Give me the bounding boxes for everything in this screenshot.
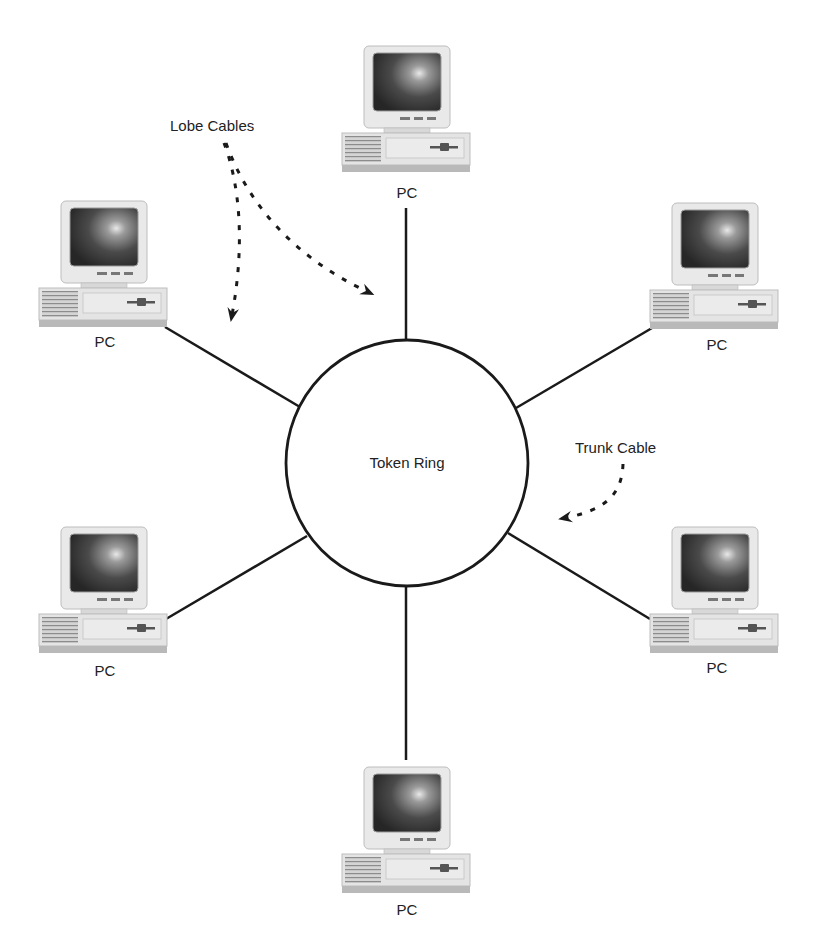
cable-lower-left xyxy=(166,536,307,619)
pc-top: PC xyxy=(342,46,470,202)
pc-upper-left: PC xyxy=(39,201,167,350)
computer-icon xyxy=(342,767,470,893)
computer-icon xyxy=(342,46,470,172)
cable-lower-right xyxy=(508,533,650,619)
cable-upper-right xyxy=(516,328,652,408)
pc-label: PC xyxy=(707,336,728,353)
trunk-cable-annotation: Trunk Cable xyxy=(565,439,656,518)
lobe-cables-label: Lobe Cables xyxy=(170,117,254,134)
trunk-arrow xyxy=(565,464,623,518)
cable-upper-left xyxy=(165,327,300,407)
pc-bottom: PC xyxy=(342,767,470,918)
computer-icon xyxy=(650,527,778,653)
pc-upper-right: PC xyxy=(650,203,778,353)
pc-label: PC xyxy=(397,184,418,201)
ring-label: Token Ring xyxy=(369,454,444,471)
lobe-cables-annotation: Lobe Cables xyxy=(170,117,368,315)
pc-label: PC xyxy=(95,333,116,350)
pc-lower-right: PC xyxy=(650,527,778,676)
pc-label: PC xyxy=(95,662,116,679)
pc-label: PC xyxy=(397,901,418,918)
computer-icon xyxy=(39,201,167,327)
computer-icon xyxy=(650,203,778,329)
token-ring-diagram: Token Ring PC PC PC PC PC PC Lobe Cables… xyxy=(0,0,821,948)
trunk-cable-label: Trunk Cable xyxy=(575,439,656,456)
token-ring: Token Ring xyxy=(286,340,528,586)
pc-lower-left: PC xyxy=(39,527,167,679)
computer-icon xyxy=(39,527,167,653)
pc-label: PC xyxy=(707,659,728,676)
